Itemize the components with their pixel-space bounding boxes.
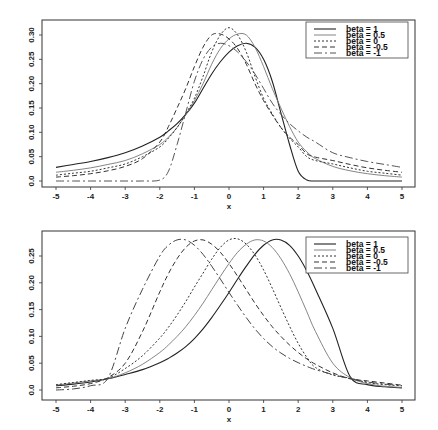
- y-tick-label: 0.25: [27, 248, 36, 264]
- legend-label: beta = -1: [346, 48, 381, 58]
- x-tick-label: 3: [331, 405, 336, 414]
- x-tick-label: 0: [227, 192, 232, 201]
- x-tick-label: 5: [400, 405, 405, 414]
- x-tick-label: -1: [191, 192, 199, 201]
- y-tick-label: 0.25: [27, 51, 36, 67]
- x-tick-label: -5: [52, 405, 60, 414]
- x-axis: -5-4-3-2-1012345x: [52, 187, 404, 211]
- y-tick-label: 0.05: [27, 148, 36, 164]
- x-axis-label: x: [227, 415, 232, 424]
- x-tick-label: -1: [191, 405, 199, 414]
- x-tick-label: -3: [122, 405, 130, 414]
- y-tick-label: 0.05: [27, 355, 36, 371]
- top-density-plot: -5-4-3-2-1012345x0.00.050.100.150.200.25…: [27, 20, 415, 211]
- y-tick-label: 0.20: [27, 274, 36, 290]
- y-tick-label: 0.15: [27, 301, 36, 317]
- bottom-density-plot: -5-4-3-2-1012345x0.00.050.100.150.200.25…: [27, 231, 415, 424]
- x-tick-label: 1: [261, 405, 266, 414]
- x-tick-label: -5: [52, 192, 60, 201]
- x-axis-label: x: [227, 202, 232, 211]
- figure: -5-4-3-2-1012345x0.00.050.100.150.200.25…: [0, 0, 438, 430]
- legend: beta = 1beta = 0.5beta = 0beta = -0.5bet…: [306, 237, 408, 273]
- x-tick-label: -4: [87, 405, 95, 414]
- x-tick-label: -2: [156, 192, 164, 201]
- y-tick-label: 0.10: [27, 328, 36, 344]
- y-tick-label: 0.30: [27, 27, 36, 43]
- y-axis: 0.00.050.100.150.200.25: [27, 248, 42, 396]
- x-tick-label: 4: [365, 192, 370, 201]
- legend: beta = 1beta = 0.5beta = 0beta = -0.5bet…: [306, 22, 408, 58]
- series-line: [56, 43, 402, 181]
- x-tick-label: -4: [87, 192, 95, 201]
- y-tick-label: 0.0: [27, 384, 36, 396]
- y-tick-label: 0.10: [27, 124, 36, 140]
- x-axis: -5-4-3-2-1012345x: [52, 400, 404, 424]
- series-line: [56, 43, 402, 181]
- x-tick-label: 3: [331, 192, 336, 201]
- x-tick-label: 1: [261, 192, 266, 201]
- x-tick-label: 2: [296, 405, 301, 414]
- x-tick-label: 2: [296, 192, 301, 201]
- legend-label: beta = -1: [346, 263, 381, 273]
- x-tick-label: 5: [400, 192, 405, 201]
- y-tick-label: 0.0: [27, 175, 36, 187]
- x-tick-label: 4: [365, 405, 370, 414]
- y-tick-label: 0.20: [27, 75, 36, 91]
- x-tick-label: -2: [156, 405, 164, 414]
- y-tick-label: 0.15: [27, 100, 36, 116]
- x-tick-label: -3: [122, 192, 130, 201]
- y-axis: 0.00.050.100.150.200.250.30: [27, 27, 42, 187]
- x-tick-label: 0: [227, 405, 232, 414]
